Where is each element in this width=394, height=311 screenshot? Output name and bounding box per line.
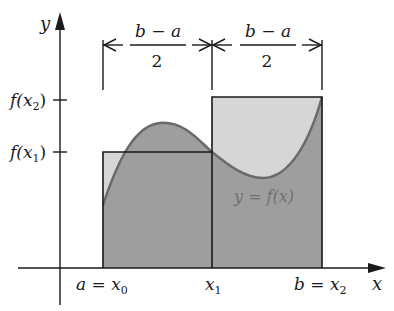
x-axis-label: x	[372, 273, 382, 294]
riemann-sum-diagram: b − a 2 b − a 2 y x f(x2) f(x1) a = x0 x…	[0, 0, 394, 311]
dimension-2-denominator: 2	[262, 51, 273, 71]
y-axis-label: y	[39, 13, 51, 34]
x-tick-label-x1: x1	[205, 274, 222, 297]
dimension-2-numerator: b − a	[245, 21, 291, 41]
dimension-lines	[103, 39, 322, 90]
y-axis-arrow-icon	[55, 12, 65, 30]
x-tick-label-a-x0: a = x0	[76, 274, 128, 297]
y-tick-label-f-x1: f(x1)	[8, 142, 46, 165]
x-tick-label-b-x2: b = x2	[294, 274, 347, 297]
y-tick-label-f-x2: f(x2)	[8, 90, 46, 113]
x-axis-arrow-icon	[368, 263, 386, 273]
curve-label: y = f(x)	[233, 187, 294, 206]
dimension-1-numerator: b − a	[135, 21, 181, 41]
dimension-1-denominator: 2	[152, 51, 163, 71]
